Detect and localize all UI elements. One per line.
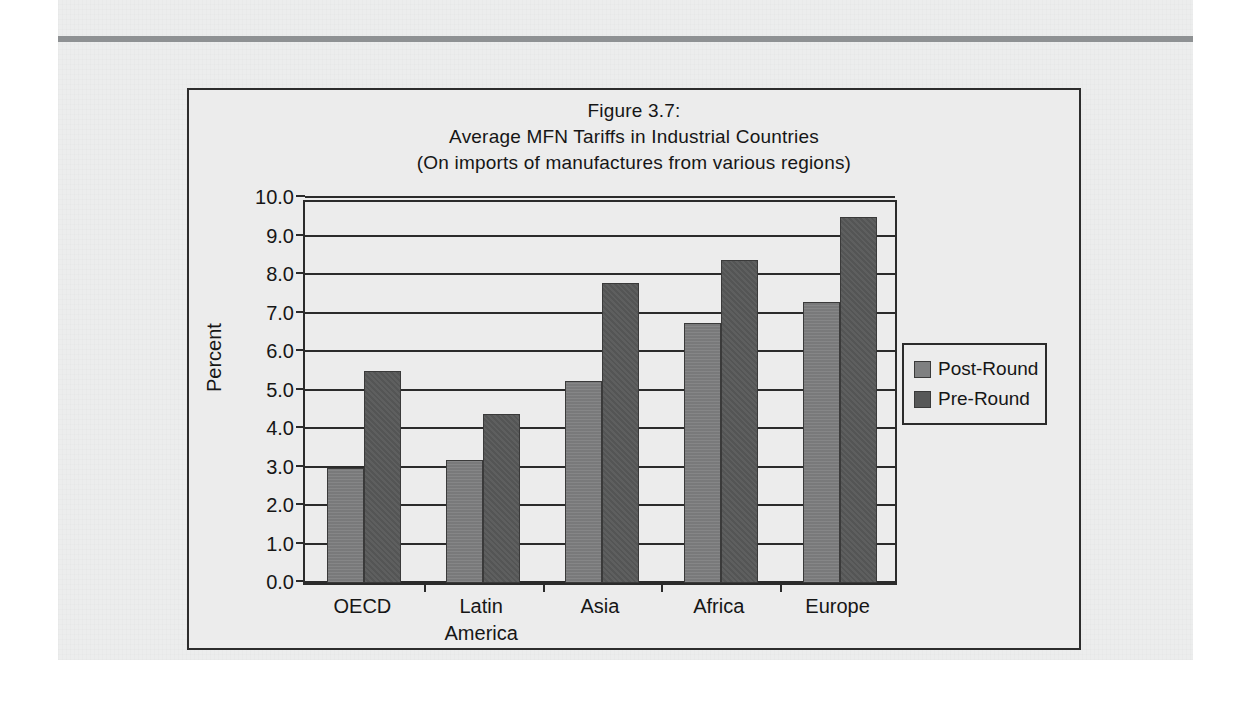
- gridline: 10.0: [305, 196, 895, 198]
- bar-post-round: [565, 381, 602, 583]
- y-axis-tick-mark: [296, 349, 305, 351]
- y-axis-tick-label: 7.0: [266, 301, 294, 324]
- y-axis-tick-mark: [296, 195, 305, 197]
- chart-title-line-2: Average MFN Tariffs in Industrial Countr…: [189, 124, 1079, 150]
- y-axis-tick-label: 5.0: [266, 378, 294, 401]
- bar-pre-round: [602, 283, 639, 583]
- x-axis-label: Asia: [541, 593, 660, 620]
- y-axis-tick-mark: [296, 234, 305, 236]
- y-axis-tick-mark: [296, 272, 305, 274]
- x-axis-label: LatinAmerica: [422, 593, 541, 647]
- legend-label-post-round: Post-Round: [938, 358, 1038, 380]
- y-axis-tick-mark: [296, 388, 305, 390]
- legend-item-post-round[interactable]: Post-Round: [914, 354, 1035, 384]
- bar-post-round: [803, 302, 840, 583]
- y-axis-tick-label: 1.0: [266, 532, 294, 555]
- x-axis-tick-mark: [543, 583, 545, 592]
- y-axis-tick-label: 8.0: [266, 263, 294, 286]
- y-axis-tick-label: 9.0: [266, 224, 294, 247]
- gridline: 8.0: [305, 273, 895, 275]
- x-axis-tick-mark: [661, 583, 663, 592]
- legend-label-pre-round: Pre-Round: [938, 388, 1030, 410]
- x-axis-tick-mark: [780, 583, 782, 592]
- y-axis-tick-mark: [296, 465, 305, 467]
- y-axis-tick-mark: [296, 426, 305, 428]
- legend-swatch-pre-round: [914, 391, 931, 408]
- x-axis-label-line: Europe: [778, 593, 897, 620]
- legend-swatch-post-round: [914, 361, 931, 378]
- plot-area: 0.01.02.03.04.05.06.07.08.09.010.0: [303, 200, 897, 585]
- bar-post-round: [446, 460, 483, 583]
- chart-title-line-1: Figure 3.7:: [189, 98, 1079, 124]
- x-axis-label-line: Africa: [659, 593, 778, 620]
- x-axis-label-line: OECD: [303, 593, 422, 620]
- y-axis-tick-mark: [296, 311, 305, 313]
- legend-item-pre-round[interactable]: Pre-Round: [914, 384, 1035, 414]
- y-axis-tick-label: 2.0: [266, 494, 294, 517]
- chart-title-line-3: (On imports of manufactures from various…: [189, 150, 1079, 176]
- y-axis-tick-label: 4.0: [266, 417, 294, 440]
- x-axis-label: OECD: [303, 593, 422, 620]
- y-axis-title: Percent: [203, 323, 226, 392]
- y-axis-tick-mark: [296, 503, 305, 505]
- x-axis-label: Africa: [659, 593, 778, 620]
- gridline: 9.0: [305, 235, 895, 237]
- y-axis-tick-mark: [296, 542, 305, 544]
- x-axis-label: Europe: [778, 593, 897, 620]
- bar-post-round: [684, 323, 721, 583]
- y-axis-tick-label: 3.0: [266, 455, 294, 478]
- bar-pre-round: [840, 217, 877, 583]
- page-header-rule: [58, 36, 1193, 42]
- bar-pre-round: [721, 260, 758, 583]
- bar-post-round: [327, 468, 364, 584]
- x-axis-label-line: Latin: [422, 593, 541, 620]
- y-axis-tick-label: 0.0: [266, 571, 294, 594]
- chart-title: Figure 3.7: Average MFN Tariffs in Indus…: [189, 98, 1079, 176]
- y-axis-tick-label: 10.0: [255, 186, 294, 209]
- chart-legend: Post-Round Pre-Round: [902, 343, 1047, 425]
- x-axis-label-line: America: [422, 620, 541, 647]
- y-axis-tick-mark: [296, 580, 305, 582]
- x-axis-tick-mark: [424, 583, 426, 592]
- bar-pre-round: [483, 414, 520, 583]
- bar-pre-round: [364, 371, 401, 583]
- figure-frame: Figure 3.7: Average MFN Tariffs in Indus…: [187, 88, 1081, 650]
- y-axis-tick-label: 6.0: [266, 340, 294, 363]
- x-axis-label-line: Asia: [541, 593, 660, 620]
